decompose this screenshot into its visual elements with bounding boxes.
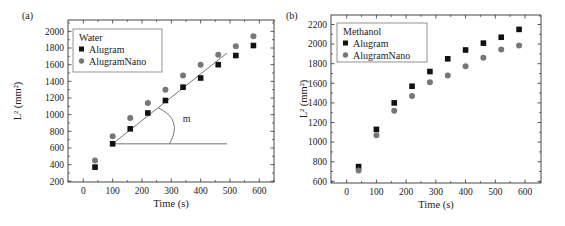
chart-canvas: (a)0100200300400500600Time (s)2004006008… [0,0,565,226]
square-marker [163,98,169,104]
legend-label: AlugramNano [353,50,410,61]
y-axis-title: L² (mm²) [12,81,24,120]
circle-marker [162,87,168,93]
x-tick-label: 400 [458,187,473,197]
y-tick-label: 800 [313,157,328,167]
x-tick-label: 300 [164,186,179,196]
y-tick-label: 1400 [45,77,64,87]
x-tick-label: 0 [81,186,86,196]
y-tick-label: 1200 [45,93,64,103]
square-marker [463,47,469,53]
x-tick-label: 100 [369,187,384,197]
square-marker [427,69,433,75]
panel-label: (a) [22,10,33,22]
y-tick-label: 600 [50,143,65,153]
y-tick-label: 1800 [308,59,327,69]
legend-square-icon [79,47,84,52]
circle-marker [250,33,256,39]
circle-marker [480,55,486,61]
x-tick-label: 200 [135,186,150,196]
y-tick-label: 1600 [45,60,64,70]
circle-marker [427,79,433,85]
square-marker [516,27,522,33]
square-marker [445,56,451,62]
circle-marker [198,62,204,68]
x-tick-label: 0 [344,187,349,197]
circle-marker [145,100,151,106]
angle-arc [158,108,174,144]
x-axis-title: Time (s) [153,198,189,210]
y-tick-label: 1000 [308,137,327,147]
square-marker [180,84,186,90]
y-tick-label: 1200 [308,118,327,128]
legend-title: Methanol [343,26,382,37]
x-tick-label: 500 [223,186,238,196]
x-tick-label: 600 [252,186,267,196]
square-marker [198,75,204,81]
circle-marker [215,52,221,58]
square-marker [251,43,257,49]
square-marker [127,126,133,132]
legend-label: AlugramNano [89,56,146,67]
circle-marker [498,46,504,52]
chart-panel-a: (a)0100200300400500600Time (s)2004006008… [12,10,274,210]
x-tick-label: 300 [429,187,444,197]
x-tick-label: 100 [106,186,121,196]
legend-square-icon [343,41,348,46]
x-tick-label: 500 [488,187,503,197]
y-tick-label: 800 [50,127,65,137]
square-marker [498,34,504,40]
y-tick-label: 600 [313,177,328,187]
legend-circle-icon [343,52,348,57]
square-marker [92,164,98,170]
x-tick-label: 200 [399,187,414,197]
x-axis-title: Time (s) [418,199,454,211]
circle-marker [409,93,415,99]
legend-circle-icon [79,58,84,63]
circle-marker [463,63,469,69]
legend: MethanolAlugramAlugramNano [337,23,427,62]
y-axis-title: L² (mm²) [298,79,310,118]
circle-marker [445,72,451,78]
circle-marker [391,108,397,114]
y-tick-label: 400 [50,160,65,170]
y-tick-label: 2200 [308,20,327,30]
circle-marker [373,132,379,138]
legend: WaterAlugramAlugramNano [73,29,162,72]
square-marker [145,110,151,116]
square-marker [391,100,397,106]
square-marker [215,62,221,68]
legend-title: Water [79,32,103,43]
square-marker [481,40,487,46]
y-tick-label: 2000 [308,39,327,49]
square-marker [374,127,380,133]
legend-label: Alugram [89,44,125,55]
y-tick-label: 1400 [308,98,327,108]
circle-marker [92,157,98,163]
square-marker [110,141,116,147]
y-tick-label: 200 [50,177,65,187]
x-tick-label: 400 [194,186,209,196]
circle-marker [233,43,239,49]
y-tick-label: 1800 [45,43,64,53]
chart-panel-b: (b)0100200300400500600Time (s)6008001000… [286,10,541,211]
circle-marker [180,73,186,79]
circle-marker [516,43,522,49]
figure: (a)0100200300400500600Time (s)2004006008… [0,0,565,226]
square-marker [409,83,415,89]
square-marker [233,53,239,59]
y-tick-label: 2000 [45,27,64,37]
circle-marker [356,168,362,174]
circle-marker [110,133,116,139]
panel-label: (b) [286,10,298,22]
y-tick-label: 1000 [45,110,64,120]
y-tick-label: 1600 [308,79,327,89]
circle-marker [127,115,133,121]
slope-label: m [183,113,191,124]
legend-label: Alugram [353,38,389,49]
x-tick-label: 600 [518,187,533,197]
